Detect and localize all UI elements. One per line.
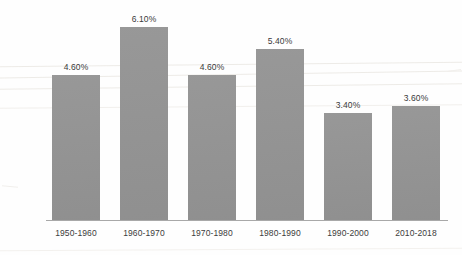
plot-area: 4.60%1950-19606.10%1960-19704.60%1970-19… [0, 0, 462, 255]
x-axis-tick-label: 1990-2000 [312, 228, 384, 238]
bar-value-label: 4.60% [176, 62, 248, 72]
bar [188, 75, 236, 220]
x-axis-tick-label: 1980-1990 [244, 228, 316, 238]
bar [256, 49, 304, 220]
bar-value-label: 5.40% [244, 36, 316, 46]
bar [392, 106, 440, 220]
x-axis-line [46, 220, 448, 221]
x-axis-tick-label: 1970-1980 [176, 228, 248, 238]
bar-value-label: 6.10% [108, 14, 180, 24]
bar-chart: 4.60%1950-19606.10%1960-19704.60%1970-19… [0, 0, 462, 255]
bar [52, 75, 100, 220]
x-axis-tick-label: 1960-1970 [108, 228, 180, 238]
bar [324, 113, 372, 220]
x-axis-tick-label: 1950-1960 [40, 228, 112, 238]
bar-value-label: 3.60% [380, 93, 452, 103]
x-axis-tick-label: 2010-2018 [380, 228, 452, 238]
bar [120, 27, 168, 220]
bar-value-label: 4.60% [40, 62, 112, 72]
bar-value-label: 3.40% [312, 100, 384, 110]
